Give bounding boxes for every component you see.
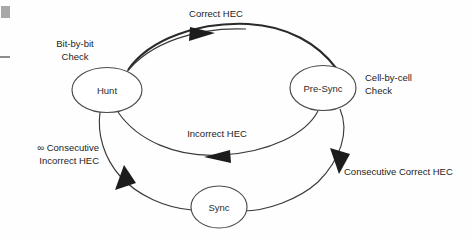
annotation-hunt-check-line2: Check bbox=[62, 51, 89, 62]
edge-label-consecutive-incorrect-hec-line1: ∞ Consecutive bbox=[37, 142, 99, 153]
state-label-sync: Sync bbox=[208, 202, 229, 213]
state-label-hunt: Hunt bbox=[97, 85, 117, 96]
arrowhead-correct-hec bbox=[189, 27, 215, 41]
edge-label-correct-hec: Correct HEC bbox=[189, 8, 243, 19]
edge-label-consecutive-incorrect-hec-line2: Incorrect HEC bbox=[39, 155, 99, 166]
edge-hunt-to-presync bbox=[128, 24, 336, 70]
edge-hunt-to-presync-secondary bbox=[126, 29, 246, 73]
state-label-presync: Pre-Sync bbox=[303, 83, 342, 94]
annotation-presync-check-line1: Cell-by-cell bbox=[365, 72, 412, 83]
annotation-presync-check-line2: Check bbox=[365, 85, 392, 96]
annotation-hunt-check-line1: Bit-by-bit bbox=[56, 38, 94, 49]
arrowhead-incorrect-hec bbox=[204, 150, 231, 163]
diagram-canvas: Hunt Pre-Sync Sync Correct HEC Incorrect… bbox=[0, 0, 474, 238]
edge-label-consecutive-correct-hec: Consecutive Correct HEC bbox=[344, 166, 453, 177]
edge-label-incorrect-hec: Incorrect HEC bbox=[187, 128, 247, 139]
state-diagram: Hunt Pre-Sync Sync Correct HEC Incorrect… bbox=[0, 0, 474, 238]
edge-presync-to-sync bbox=[243, 109, 344, 211]
edge-sync-to-hunt bbox=[99, 112, 192, 210]
arrowhead-consecutive-incorrect-hec bbox=[115, 165, 136, 190]
